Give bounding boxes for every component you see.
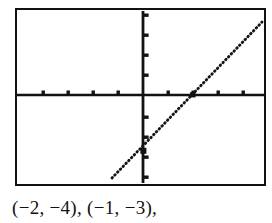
x-tick-plus4 [242, 91, 245, 96]
coordinate-plane [15, 8, 266, 186]
y-intercept-marker [140, 148, 146, 154]
y-tick-plus3 [144, 34, 149, 37]
y-tick-minus4 [144, 176, 149, 179]
x-tick-plus1 [167, 91, 170, 96]
y-tick-plus1 [144, 74, 149, 77]
x-tick-minus1 [117, 91, 120, 96]
x-intercept-marker [190, 92, 195, 97]
y-tick-plus4 [144, 14, 149, 17]
y-tick-minus2 [144, 136, 149, 139]
ordered-pairs-caption: (−2, −4), (−1, −3), [12, 196, 270, 220]
x-tick-minus2 [92, 91, 95, 96]
y-tick-minus3 [144, 156, 149, 159]
plotted-line-dotted [112, 22, 262, 178]
x-tick-minus4 [42, 91, 45, 96]
y-tick-minus1 [144, 116, 149, 119]
graph-figure: (−2, −4), (−1, −3), [0, 0, 272, 223]
y-tick-plus2 [144, 54, 149, 57]
x-tick-plus3 [217, 91, 220, 96]
x-tick-minus3 [67, 91, 70, 96]
